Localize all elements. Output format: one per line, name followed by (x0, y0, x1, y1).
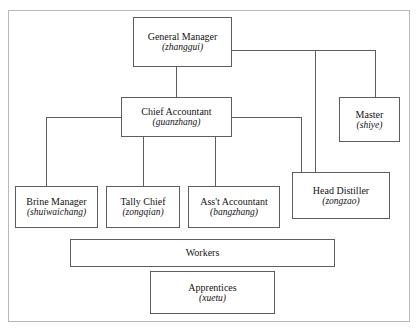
edge-chief-accountant-left-bus (46, 117, 121, 118)
edge-chief-accountant-right-bus (232, 117, 302, 118)
edge-gm-right-bus (232, 50, 376, 51)
edge-gm-to-chief-accountant (176, 67, 177, 97)
node-title: Head Distiller (313, 185, 369, 196)
node-apprentices[interactable]: Apprentices (xuetu) (150, 271, 275, 314)
node-workers[interactable]: Workers (70, 239, 335, 267)
node-pinyin: (shiye) (357, 120, 383, 131)
node-pinyin: (zhanggui) (162, 42, 203, 53)
node-asst-accountant[interactable]: Ass't Accountant (bangzhang) (188, 186, 280, 228)
node-pinyin: (zongzao) (322, 196, 359, 207)
node-title: Chief Accountant (141, 106, 211, 117)
edge-chief-accountant-to-asst-accountant (215, 137, 216, 186)
edge-gm-to-master (375, 50, 376, 97)
edge-chief-accountant-to-brine-manager (46, 117, 47, 186)
node-pinyin: (zongqian) (122, 207, 163, 218)
node-tally-chief[interactable]: Tally Chief (zongqian) (106, 186, 180, 228)
edge-chief-accountant-to-head-distiller (301, 117, 302, 172)
node-pinyin: (bangzhang) (210, 207, 258, 218)
org-chart-diagram: General Manager (zhanggui) Chief Account… (0, 0, 420, 334)
node-pinyin: (guanzhang) (152, 117, 200, 128)
node-title: General Manager (148, 31, 218, 42)
node-general-manager[interactable]: General Manager (zhanggui) (133, 17, 232, 67)
node-title: Ass't Accountant (200, 196, 268, 207)
node-brine-manager[interactable]: Brine Manager (shuiwaichang) (15, 186, 98, 228)
node-master[interactable]: Master (shiye) (339, 97, 400, 142)
node-title: Master (356, 109, 384, 120)
node-title: Brine Manager (26, 196, 86, 207)
node-chief-accountant[interactable]: Chief Accountant (guanzhang) (121, 97, 232, 137)
node-title: Workers (186, 247, 220, 258)
node-head-distiller[interactable]: Head Distiller (zongzao) (292, 172, 390, 219)
node-title: Apprentices (188, 282, 236, 293)
node-pinyin: (xuetu) (199, 293, 226, 304)
edge-chief-accountant-to-tally-chief (143, 137, 144, 186)
node-pinyin: (shuiwaichang) (27, 207, 86, 218)
edge-gm-to-head-distiller (315, 50, 316, 172)
node-title: Tally Chief (120, 196, 165, 207)
